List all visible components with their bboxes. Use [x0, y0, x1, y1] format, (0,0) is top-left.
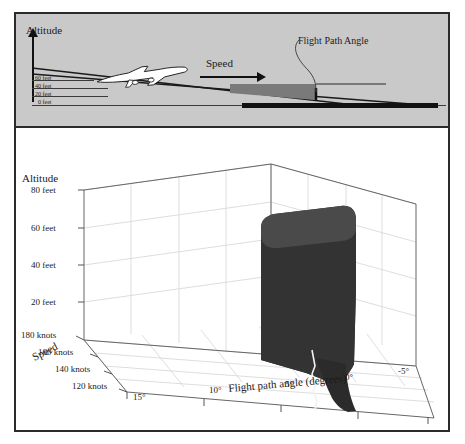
schematic-tick-40: 40 feet — [35, 83, 52, 89]
schematic-tick-0: 0 feet — [38, 99, 52, 105]
altitude-tick-20: 20 feet — [31, 297, 56, 307]
altitude-axis-arrow — [32, 36, 34, 102]
altitude-tick-80: 80 feet — [31, 185, 56, 195]
angle-tick-15: 15° — [133, 392, 146, 402]
schematic-tick-20: 20 feet — [35, 91, 52, 97]
altitude-tick-60: 60 feet — [31, 223, 56, 233]
flight-path-angle-label: Flight Path Angle — [298, 35, 369, 46]
runway-bar — [242, 103, 438, 108]
aircraft-engine-1 — [132, 80, 138, 85]
angle-wedge — [230, 84, 316, 100]
angle-tick-10: 10° — [209, 385, 222, 395]
altitude-tick-40: 40 feet — [31, 260, 56, 270]
aircraft-engine-2 — [148, 78, 154, 83]
figure-root: Altitude Speed Flight Path Angle 60 feet… — [0, 0, 465, 444]
angle-tick-neg5: -5° — [398, 366, 409, 376]
speed-tick-120: 120 knots — [72, 381, 107, 391]
plot3d-altitude-label: Altitude — [22, 172, 58, 184]
schematic-graphics — [16, 14, 448, 126]
speed-tick-140: 140 knots — [55, 364, 90, 374]
back-wall-grid — [84, 164, 416, 360]
schematic-altitude-label: Altitude — [26, 24, 62, 36]
schematic-tick-60: 60 feet — [35, 75, 52, 81]
schematic-speed-label: Speed — [206, 57, 233, 69]
speed-tick-180: 180 knots — [21, 330, 56, 340]
schematic-panel — [16, 14, 448, 126]
speed-arrow — [200, 76, 258, 78]
